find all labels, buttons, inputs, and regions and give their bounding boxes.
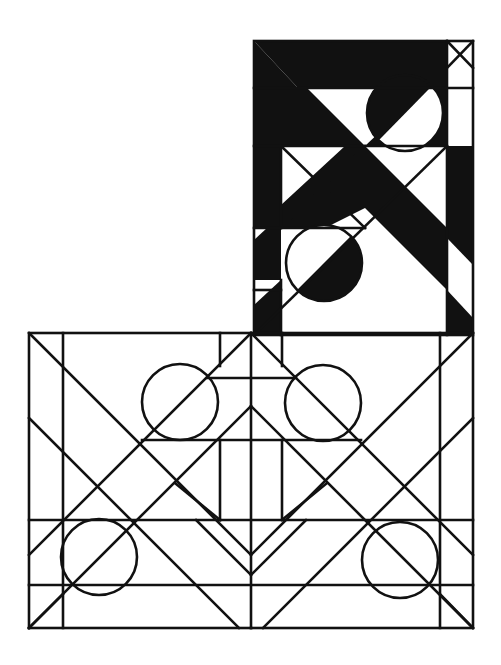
upper-circle-2 xyxy=(286,225,362,301)
black-shape-5 xyxy=(254,146,281,228)
black-shape-9 xyxy=(254,280,281,335)
lower-circles xyxy=(61,364,438,598)
lower-lines xyxy=(29,333,473,628)
upper-circle-1 xyxy=(366,74,443,151)
black-shape-6 xyxy=(447,146,473,265)
lower-panel xyxy=(29,333,473,628)
upper-panel xyxy=(254,41,473,335)
upper-black-shapes xyxy=(254,41,473,335)
geometric-artwork: Geometric composition xyxy=(0,0,501,665)
circle-bottom-right xyxy=(362,522,438,598)
circle-top-left xyxy=(142,364,218,440)
black-shape-10 xyxy=(447,290,473,335)
circle-top-right xyxy=(285,365,361,441)
black-shape-3 xyxy=(254,88,365,146)
